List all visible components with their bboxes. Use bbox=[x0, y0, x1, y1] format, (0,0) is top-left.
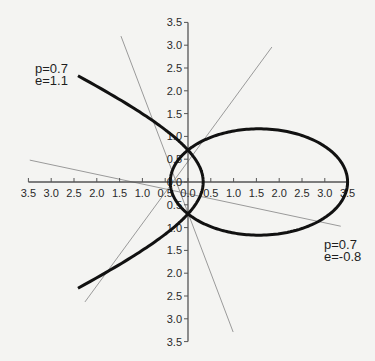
x-tick-label: 2.5 bbox=[294, 187, 309, 199]
x-tick-label: 3.5 bbox=[21, 187, 36, 199]
hyperbola-label: p=0.7 e=1.1 bbox=[35, 63, 68, 87]
y-tick-label: 1.5 bbox=[167, 244, 182, 256]
y-tick-label: 1.5 bbox=[167, 108, 182, 120]
hyperbola-e-label: e=1.1 bbox=[35, 75, 68, 87]
y-tick-label: 3.0 bbox=[167, 313, 182, 325]
ellipse-e-label: e=-0.8 bbox=[324, 251, 361, 263]
x-tick-label: 0.5 bbox=[203, 187, 218, 199]
x-tick-label: 1.0 bbox=[135, 187, 150, 199]
x-tick-label: 2.0 bbox=[89, 187, 104, 199]
polar-conic-chart: 3.53.02.52.01.51.00.50.00.51.01.52.02.53… bbox=[0, 0, 375, 361]
x-tick-label: 1.5 bbox=[112, 187, 127, 199]
x-tick-label: 0.0 bbox=[180, 187, 195, 199]
x-tick-label: 1.5 bbox=[249, 187, 264, 199]
x-tick-label: 3.0 bbox=[317, 187, 332, 199]
axes: 3.53.02.52.01.51.00.50.00.51.01.52.02.53… bbox=[21, 16, 355, 347]
y-tick-label: 2.5 bbox=[167, 62, 182, 74]
x-axis-ticks: 3.53.02.52.01.51.00.50.00.51.01.52.02.53… bbox=[21, 178, 355, 199]
x-tick-label: 2.5 bbox=[66, 187, 81, 199]
y-tick-label: 2.0 bbox=[167, 267, 182, 279]
x-tick-label: 3.0 bbox=[44, 187, 59, 199]
y-tick-label: 2.5 bbox=[167, 290, 182, 302]
x-tick-label: 1.0 bbox=[226, 187, 241, 199]
reference-lines bbox=[30, 36, 341, 332]
x-tick-label: 2.0 bbox=[272, 187, 287, 199]
y-tick-label: 3.0 bbox=[167, 39, 182, 51]
ellipse-label: p=0.7 e=-0.8 bbox=[324, 239, 361, 263]
y-tick-label: 3.5 bbox=[167, 336, 182, 348]
y-tick-label: 2.0 bbox=[167, 85, 182, 97]
y-tick-label: 3.5 bbox=[167, 16, 182, 28]
